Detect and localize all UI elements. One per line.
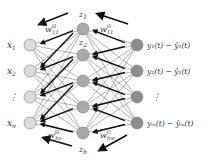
hidden-node-3 — [77, 75, 89, 87]
output-node-4 — [131, 117, 143, 129]
neural-network-diagram: x1 x2 ⋮ xn z1 z2 zh y₁(t) − ŷ₁(t) y₂(t) … — [0, 0, 217, 160]
hidden-node-1 — [77, 23, 89, 35]
hidden-node-2 — [77, 49, 89, 61]
input-node-2 — [24, 65, 36, 77]
backprop-arrow-hidden-1-input-2 — [41, 33, 73, 67]
output-labels: y₁(t) − ŷ₁(t) y₂(t) − ŷ₂(t) ⋮ yₘ(t) − ŷₘ… — [146, 41, 194, 128]
input-node-1 — [24, 39, 36, 51]
output-node-3 — [131, 91, 143, 103]
hidden-node-4 — [77, 101, 89, 113]
hidden-label-1: z1 — [78, 10, 87, 20]
output-label-1: y₁(t) − ŷ₁(t) — [146, 41, 190, 50]
weight-label-w11-output: wO11 — [100, 23, 113, 35]
output-label-2: y₂(t) − ŷ₂(t) — [146, 67, 190, 76]
hidden-label-2: z2 — [78, 38, 87, 48]
weight-label-whn-hidden: wHhn — [48, 129, 62, 141]
input-labels: x1 x2 ⋮ xn — [7, 40, 18, 129]
input-node-3 — [24, 91, 36, 103]
weight-label-whm-output: wOhm — [100, 129, 115, 141]
output-label-ellipsis: ⋮ — [152, 92, 161, 102]
output-label-m: yₘ(t) − ŷₘ(t) — [146, 119, 194, 128]
backprop-arrow-hidden-2-input-3 — [41, 59, 73, 93]
weight-label-w11-hidden: wH11 — [45, 23, 59, 35]
input-label-n: xn — [7, 118, 16, 129]
input-label-1: x1 — [7, 40, 16, 51]
input-label-2: x2 — [7, 66, 16, 77]
input-node-4 — [24, 117, 36, 129]
output-node-2 — [131, 65, 143, 77]
hidden-node-5 — [77, 127, 89, 139]
top-right-backprop-arrow — [98, 14, 128, 24]
backprop-arrow-output-3-hidden-4 — [93, 99, 125, 107]
output-node-1 — [131, 39, 143, 51]
hidden-label-h: zh — [78, 145, 87, 155]
input-label-ellipsis: ⋮ — [9, 92, 18, 102]
